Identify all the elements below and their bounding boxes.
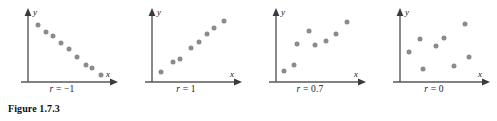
data-point [205, 32, 210, 37]
data-point [75, 55, 80, 60]
figure-caption: Figure 1.7.3 [8, 103, 60, 114]
equals-sign: = [431, 84, 437, 94]
scatter-panel-r-1: y x r = 1 [124, 0, 248, 100]
y-axis-label: y [280, 7, 285, 17]
data-point [90, 66, 95, 71]
data-point [212, 26, 217, 31]
correlation-label: r = −1 [0, 84, 124, 94]
data-point [44, 30, 49, 35]
axes: y x [21, 7, 118, 85]
correlation-label: r = 1 [124, 84, 248, 94]
data-point [418, 37, 423, 42]
data-point [295, 42, 300, 47]
data-point [84, 63, 89, 68]
data-point [421, 67, 426, 72]
data-point [99, 73, 104, 78]
data-point [307, 29, 312, 34]
scatter-panel-r-neg1: y x r = −1 [0, 0, 124, 100]
x-axis-label: x [353, 69, 358, 79]
y-axis-label: y [156, 7, 161, 17]
x-axis-label: x [229, 69, 234, 79]
axes: y x [269, 7, 366, 85]
y-axis-label: y [404, 7, 409, 17]
data-points [36, 23, 104, 78]
x-axis-label: x [477, 69, 482, 79]
correlation-symbol: r [424, 84, 428, 94]
equals-sign: = [56, 84, 62, 94]
y-axis-arrowhead [25, 8, 32, 16]
correlation-value: −1 [64, 84, 75, 94]
equals-sign: = [183, 84, 189, 94]
correlation-value: 0 [439, 84, 444, 94]
data-points [282, 20, 350, 74]
y-axis-arrowhead [397, 8, 404, 16]
data-point [67, 47, 72, 52]
data-point [407, 50, 412, 55]
y-axis-arrowhead [149, 8, 156, 16]
correlation-symbol: r [49, 84, 53, 94]
scatter-panel-r-07: y x r = 0.7 [248, 0, 372, 100]
axes: y x [393, 7, 490, 85]
correlation-label: r = 0.7 [248, 84, 372, 94]
data-point [292, 63, 297, 68]
data-point [463, 22, 468, 27]
data-points [407, 22, 472, 72]
scatter-panel-r-0: y x r = 0 [372, 0, 496, 100]
data-point [442, 36, 447, 41]
correlation-symbol: r [176, 84, 180, 94]
data-point [324, 39, 329, 44]
correlation-value: 0.7 [311, 84, 323, 94]
y-axis-label: y [32, 7, 37, 17]
correlation-symbol: r [296, 84, 300, 94]
data-point [59, 41, 64, 46]
data-point [36, 23, 41, 28]
figure-1-7-3: y x r = −1 [0, 0, 497, 121]
data-point [51, 34, 56, 39]
scatter-panel-row: y x r = −1 [0, 0, 497, 100]
data-point [452, 64, 457, 69]
data-point [334, 32, 339, 37]
data-point [189, 46, 194, 51]
correlation-value: 1 [191, 84, 196, 94]
x-axis-label: x [105, 69, 110, 79]
y-axis-arrowhead [273, 8, 280, 16]
equals-sign: = [303, 84, 309, 94]
data-point [178, 57, 183, 62]
data-point [282, 69, 287, 74]
data-points [159, 19, 227, 75]
data-point [197, 40, 202, 45]
data-point [467, 55, 472, 60]
data-point [171, 60, 176, 65]
data-point [159, 70, 164, 75]
data-point [313, 43, 318, 48]
data-point [345, 20, 350, 25]
data-point [222, 19, 227, 24]
data-point [434, 44, 439, 49]
correlation-label: r = 0 [372, 84, 496, 94]
